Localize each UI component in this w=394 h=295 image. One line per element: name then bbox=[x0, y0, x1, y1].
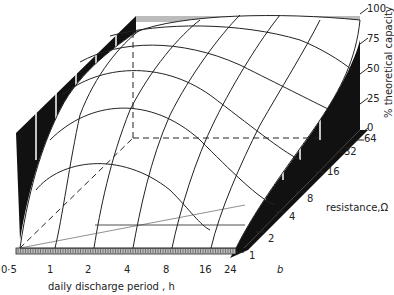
x-tick-2: 2 bbox=[85, 264, 91, 275]
y-tick-32: 32 bbox=[344, 146, 357, 157]
y-axis-label: resistance,Ω bbox=[326, 202, 388, 213]
x-tick-0-5: 0·5 bbox=[1, 264, 17, 275]
x-axis-label: daily discharge period , h bbox=[48, 281, 175, 292]
panel-label: b bbox=[277, 264, 283, 275]
y-tick-1: 1 bbox=[249, 250, 255, 261]
y-tick-2: 2 bbox=[268, 233, 274, 244]
y-tick-16: 16 bbox=[327, 166, 340, 177]
y-tick-64: 64 bbox=[364, 133, 377, 144]
z-tick-0: 0 bbox=[367, 122, 373, 133]
z-axis-label: % theoretical capacity bbox=[383, 6, 394, 118]
x-tick-24: 24 bbox=[224, 264, 237, 275]
z-tick-25: 25 bbox=[367, 93, 380, 104]
z-tick-75: 75 bbox=[367, 33, 380, 44]
y-tick-4: 4 bbox=[289, 211, 295, 222]
x-tick-8: 8 bbox=[163, 264, 169, 275]
x-tick-1: 1 bbox=[47, 264, 53, 275]
surface-plot bbox=[0, 0, 394, 295]
y-tick-8: 8 bbox=[307, 193, 313, 204]
x-tick-16: 16 bbox=[199, 264, 212, 275]
x-tick-4: 4 bbox=[124, 264, 130, 275]
z-tick-50: 50 bbox=[367, 63, 380, 74]
